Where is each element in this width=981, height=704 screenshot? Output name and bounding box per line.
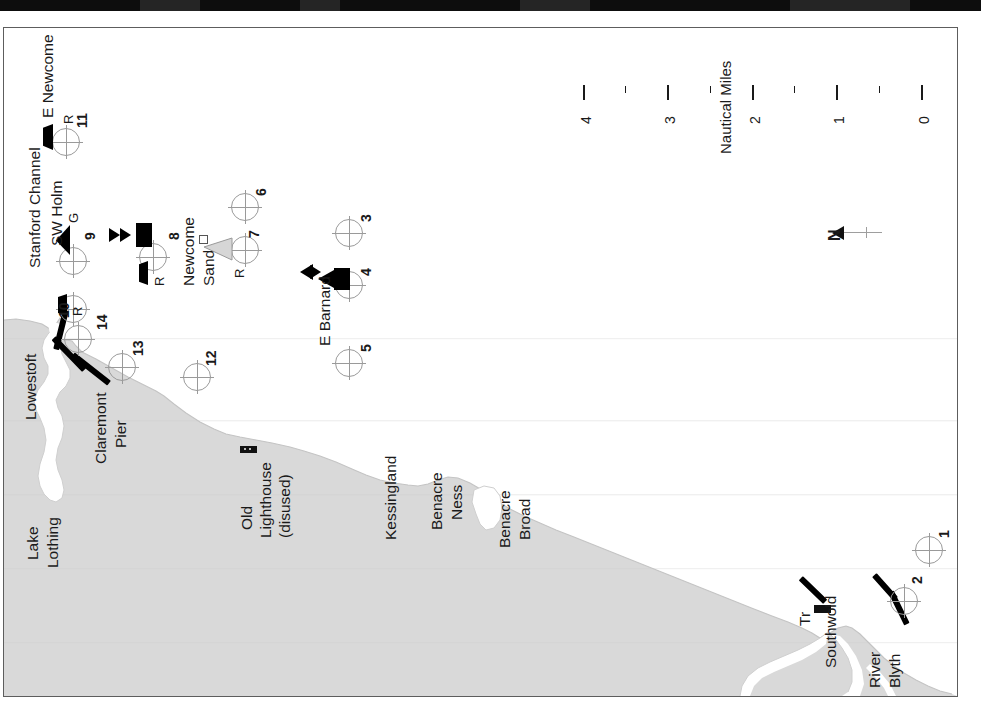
north-arrow-stem — [842, 232, 882, 233]
waypoint-crosshair — [78, 322, 79, 356]
place-label-lake: Lake — [24, 526, 42, 560]
place-label-lothing: Lothing — [44, 517, 62, 568]
scale-bar: Nautical Miles 0 1 2 3 4 — [549, 46, 949, 136]
place-label-ness: Ness — [448, 485, 466, 520]
area-label-e-newcome: E Newcome — [39, 34, 57, 118]
scale-tick-minor — [879, 86, 880, 93]
chart-frame: R 11 E Newcome G 9 SW Holm R 10 Stanford… — [3, 27, 958, 697]
waypoint-label-9: 9 — [82, 232, 98, 240]
place-label-kessingland: Kessingland — [382, 456, 400, 540]
bar-speck — [520, 0, 590, 11]
area-label-newcome: Newcome — [180, 217, 198, 286]
top-black-bar — [0, 0, 981, 11]
place-label-blyth: Blyth — [886, 654, 904, 688]
scale-tick-major — [667, 85, 669, 100]
place-label-benacre: Benacre — [428, 472, 446, 530]
scale-label-4: 4 — [578, 116, 594, 124]
place-label-pier: Pier — [112, 420, 130, 448]
area-label-stanford-channel: Stanford Channel — [26, 147, 44, 268]
place-label-tr: Tr — [796, 612, 814, 626]
waypoint-label-11: 11 — [74, 113, 90, 128]
scale-tick-major — [921, 85, 923, 100]
waypoint-crosshair — [245, 233, 246, 267]
waypoint-crosshair — [73, 244, 74, 278]
buoy-newcome-sand — [136, 223, 152, 247]
scale-tick-minor — [625, 86, 626, 93]
place-label-benacre-broad-2: Broad — [516, 499, 534, 540]
bar-speck — [300, 0, 340, 11]
scale-label-1: 1 — [831, 116, 847, 124]
topmark-arrow-a — [109, 228, 120, 242]
scale-tick-minor — [710, 86, 711, 93]
place-label-claremont: Claremont — [92, 393, 110, 465]
place-label-river: River — [866, 652, 884, 688]
waypoint-11[interactable] — [49, 125, 83, 159]
scale-tick-major — [583, 85, 585, 100]
old-lighthouse-icon — [240, 446, 257, 453]
waypoint-label-12: 12 — [203, 350, 219, 366]
waypoint-label-14: 14 — [94, 314, 110, 330]
buoy-e-barnard — [334, 268, 350, 290]
waypoint-crosshair — [122, 350, 123, 384]
waypoint-crosshair — [153, 240, 154, 274]
north-arrow: N — [804, 206, 884, 240]
place-label-lighthouse: Lighthouse — [257, 462, 275, 538]
place-label-lowestoft: Lowestoft — [22, 354, 40, 420]
scale-label-0: 0 — [916, 116, 932, 124]
bar-speck — [140, 0, 200, 11]
waypoint-crosshair — [929, 533, 930, 567]
waypoint-label-13: 13 — [130, 340, 146, 356]
scale-tick-major — [752, 85, 754, 100]
topmark-arrow-b — [120, 228, 131, 242]
waypoint-crosshair — [349, 346, 350, 380]
waypoint-crosshair — [66, 125, 67, 159]
north-arrow-tick — [866, 227, 867, 238]
waypoint-label-3: 3 — [358, 214, 374, 222]
area-label-sw-holm: SW Holm — [48, 181, 66, 246]
north-arrow-label: N — [826, 229, 844, 241]
buoy-code-r-7: R — [232, 269, 247, 278]
scale-bar-title: Nautical Miles — [717, 61, 734, 154]
scale-tick-major — [836, 85, 838, 100]
place-label-old: Old — [238, 506, 256, 530]
waypoint-label-1: 1 — [936, 530, 952, 538]
waypoint-crosshair — [349, 216, 350, 250]
waypoint-crosshair — [197, 360, 198, 394]
waypoint-label-4: 4 — [358, 268, 374, 276]
place-label-southwold: Southwold — [822, 596, 840, 668]
place-label-benacre-broad-1: Benacre — [496, 490, 514, 548]
buoy-code-r-newcome-sand: R — [152, 277, 167, 286]
waypoint-label-7: 7 — [246, 230, 262, 238]
waypoint-9[interactable] — [56, 244, 90, 278]
waypoint-2[interactable] — [887, 584, 921, 618]
waypoint-crosshair — [904, 584, 905, 618]
area-label-e-barnard: E Barnard — [316, 276, 334, 346]
waypoint-label-6: 6 — [253, 188, 269, 196]
buoy-code-r-stanford: R — [70, 307, 85, 316]
scale-label-2: 2 — [747, 116, 763, 124]
waypoint-crosshair — [245, 190, 246, 224]
bar-speck — [790, 0, 910, 11]
waypoint-14[interactable] — [61, 322, 95, 356]
waypoint-label-2: 2 — [909, 576, 925, 584]
place-label-disused: (disused) — [276, 474, 294, 538]
scale-label-3: 3 — [662, 116, 678, 124]
buoy-newcome-sand-tail — [139, 261, 148, 285]
buoy-code-g-sw-holm: G — [66, 213, 81, 223]
scale-tick-minor — [794, 86, 795, 93]
waypoint-label-10: 10 — [56, 302, 72, 318]
waypoint-1[interactable] — [912, 533, 946, 567]
buoy-topmark-square-7 — [199, 235, 208, 244]
buoy-e-newcome — [43, 124, 53, 150]
waypoint-label-5: 5 — [358, 344, 374, 352]
